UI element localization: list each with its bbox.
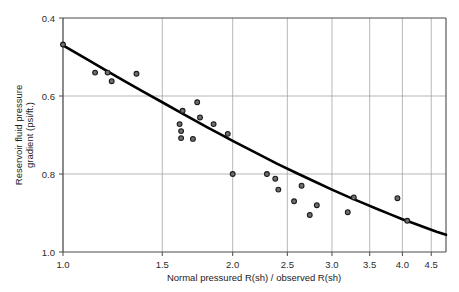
data-point-6: [179, 129, 184, 134]
data-point-12: [211, 122, 216, 127]
plot-frame: [63, 18, 446, 252]
scatter-points: [61, 42, 410, 223]
y-tick-label-0: 0.4: [42, 13, 55, 24]
x-tick-labels: 1.01.52.02.53.03.54.04.5: [56, 259, 437, 270]
chart-figure: 1.01.52.02.53.03.54.04.5 0.40.60.81.0 No…: [0, 0, 459, 292]
x-tick-label-4: 3.0: [325, 259, 338, 270]
data-point-5: [177, 122, 182, 127]
data-point-9: [191, 137, 196, 142]
x-tick-label-3: 2.5: [281, 259, 294, 270]
data-point-13: [225, 131, 230, 136]
grid-lines: [63, 18, 446, 252]
x-tick-label-7: 4.5: [425, 259, 438, 270]
data-point-19: [299, 183, 304, 188]
y-tick-label-2: 0.8: [42, 169, 55, 180]
data-point-14: [230, 172, 235, 177]
data-point-4: [134, 71, 139, 76]
y-tick-label-1: 0.6: [42, 91, 55, 102]
data-point-23: [351, 195, 356, 200]
data-point-8: [180, 108, 185, 113]
y-axis-title-line1: Reservoir fluid pressure: [13, 85, 24, 185]
data-point-25: [405, 218, 410, 223]
regression-curve: [63, 45, 446, 235]
data-point-22: [345, 210, 350, 215]
chart-canvas: 1.01.52.02.53.03.54.04.5 0.40.60.81.0 No…: [0, 0, 459, 292]
y-tick-label-3: 1.0: [42, 247, 55, 258]
x-axis-title: Normal pressured R(sh) / observed R(sh): [167, 272, 341, 283]
data-point-21: [314, 203, 319, 208]
x-tick-label-2: 2.0: [226, 259, 239, 270]
data-point-15: [265, 172, 270, 177]
x-tick-label-5: 3.5: [363, 259, 376, 270]
x-tick-label-1: 1.5: [156, 259, 169, 270]
tick-marks: [59, 18, 431, 256]
data-point-16: [273, 176, 278, 181]
data-point-11: [198, 115, 203, 120]
data-point-18: [292, 199, 297, 204]
data-point-17: [276, 187, 281, 192]
fit-curve: [63, 45, 446, 235]
x-tick-label-6: 4.0: [396, 259, 409, 270]
data-point-0: [61, 42, 66, 47]
data-point-24: [395, 196, 400, 201]
x-tick-label-0: 1.0: [56, 259, 69, 270]
data-point-20: [307, 213, 312, 218]
data-point-1: [93, 70, 98, 75]
data-point-3: [109, 79, 114, 84]
y-axis-title-line2: gradient (psi/ft.): [24, 102, 35, 168]
data-point-2: [105, 70, 110, 75]
data-point-10: [195, 100, 200, 105]
y-tick-labels: 0.40.60.81.0: [42, 13, 55, 258]
data-point-7: [179, 136, 184, 141]
